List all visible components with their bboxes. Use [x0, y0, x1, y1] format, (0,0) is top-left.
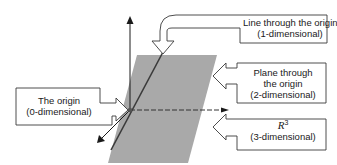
label-origin: The origin (0-dimensional) — [18, 95, 100, 117]
label-plane-title-2: the origin — [240, 78, 326, 89]
label-origin-title: The origin — [18, 95, 100, 106]
label-r3-symbol: R3 — [240, 120, 326, 131]
label-plane-through-origin: Plane through the origin (2-dimensional) — [240, 67, 326, 100]
label-r3-dimension: (3-dimensional) — [240, 131, 326, 142]
label-plane-title-1: Plane through — [240, 67, 326, 78]
label-plane-dimension: (2-dimensional) — [240, 89, 326, 100]
label-line-title: Line through the origin — [243, 17, 327, 28]
vertical-axis-arrowhead-icon — [127, 16, 134, 24]
label-line-dimension: (1-dimensional) — [243, 28, 327, 39]
label-line-through-origin: Line through the origin (1-dimensional) — [243, 17, 327, 39]
horizontal-axis-arrowhead-icon — [221, 108, 229, 113]
subspaces-diagram: Line through the origin (1-dimensional) … — [0, 0, 337, 165]
label-r3: R3 (3-dimensional) — [240, 120, 326, 142]
label-origin-dimension: (0-dimensional) — [18, 106, 100, 117]
label-r3-exponent: 3 — [284, 119, 288, 126]
